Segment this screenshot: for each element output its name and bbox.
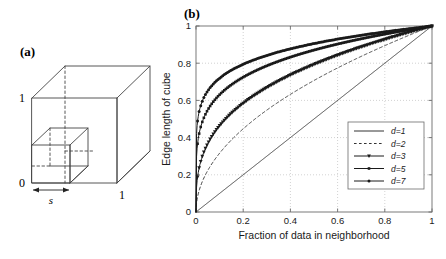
legend-label: d=5 [391,164,406,174]
marker-triangle [205,143,209,147]
marker-square [203,116,206,119]
marker-square [368,167,371,170]
y-tick-label: 1 [186,20,191,31]
marker-circle [196,120,199,123]
legend-label: d=1 [391,126,406,136]
legend-label: d=2 [391,139,406,149]
x-tick-label: 0 [193,215,198,226]
marker-triangle [200,155,204,159]
x-axis-title: Fraction of data in neighborhood [238,229,389,241]
marker-square [209,105,212,108]
x-tick-label: 1 [429,215,434,226]
marker-square [201,121,204,124]
legend-label: d=7 [391,176,406,186]
y-tick-label: 0.2 [178,169,191,180]
marker-circle [431,25,434,28]
x-tick-label: 0.8 [378,215,391,226]
marker-circle [198,110,201,113]
x-tick-label: 0.4 [284,215,297,226]
figure-container: (a) [0,0,446,259]
marker-triangle [202,151,206,155]
y-tick-label: 0 [186,206,191,217]
marker-circle [204,93,207,96]
curve-chart: 00.20.40.60.8100.20.40.60.81Fraction of … [0,0,446,259]
marker-triangle [204,147,208,151]
marker-circle [368,180,371,183]
y-tick-label: 0.4 [178,132,191,143]
marker-square [204,113,207,116]
marker-circle [201,100,204,103]
marker-triangle [199,160,203,164]
x-tick-label: 0.2 [237,215,250,226]
y-tick-label: 0.6 [178,95,191,106]
marker-square [199,126,202,129]
x-tick-label: 0.6 [331,215,344,226]
marker-circle [202,96,205,99]
y-tick-label: 0.8 [178,58,191,69]
marker-square [206,110,209,113]
legend: d=1d=2d=3d=5d=7 [348,122,424,189]
legend-label: d=3 [391,151,406,161]
marker-square [207,107,210,110]
marker-circle [199,104,202,107]
marker-square [198,132,201,135]
y-axis-title: Edge length of cube [160,72,172,166]
panel-b: (b) 00.20.40.60.8100.20.40.60.81Fraction… [180,0,446,259]
marker-triangle [197,166,201,170]
